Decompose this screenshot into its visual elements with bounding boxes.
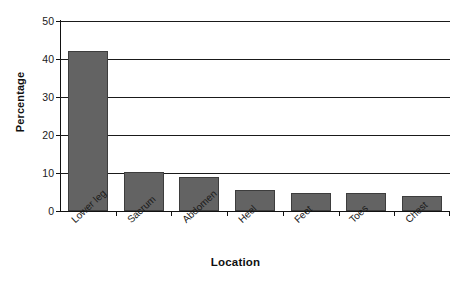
bars-layer (60, 21, 450, 211)
x-tick-mark (227, 211, 228, 216)
bar-chart-figure: Percentage 01020304050 Lower legSacrumAb… (0, 0, 471, 285)
y-tick-label: 0 (48, 205, 54, 217)
y-tick-label: 10 (42, 167, 54, 179)
y-tick-label: 40 (42, 53, 54, 65)
x-axis-title: Location (0, 256, 471, 268)
y-tick-label: 50 (42, 15, 54, 27)
plot-area: 01020304050 Lower legSacrumAbdomenHeelFe… (60, 21, 450, 211)
x-tick-mark (394, 211, 395, 216)
y-tick-label: 20 (42, 129, 54, 141)
y-tick-label: 30 (42, 91, 54, 103)
x-tick-mark (171, 211, 172, 216)
y-tick-mark (56, 211, 60, 212)
x-tick-mark (339, 211, 340, 216)
x-tick-mark (116, 211, 117, 216)
y-axis-title: Percentage (14, 52, 26, 152)
x-tick-mark (449, 211, 450, 216)
x-tick-mark (283, 211, 284, 216)
bar (68, 51, 108, 211)
